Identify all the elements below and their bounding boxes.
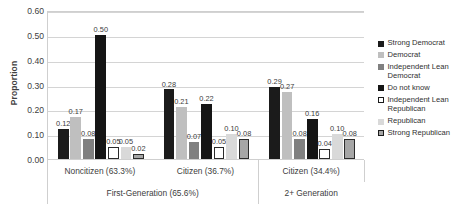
legend-swatch-icon <box>378 41 384 47</box>
category-label: Citizen (36.7%) <box>153 160 259 182</box>
category-label: Citizen (34.4%) <box>258 160 364 182</box>
axis-separator <box>47 160 48 204</box>
bar[interactable] <box>332 134 343 159</box>
legend-swatch-icon <box>378 85 384 91</box>
bar[interactable] <box>239 139 250 159</box>
legend-swatch-icon <box>378 64 384 70</box>
bar-slot: 0.10 <box>226 10 237 159</box>
legend-item[interactable]: Republican <box>378 116 464 126</box>
bar-slot: 0.28 <box>164 10 175 159</box>
legend-swatch-icon <box>378 119 384 125</box>
category-labels-row: Noncitizen (63.3%)Citizen (36.7%)Citizen… <box>47 160 364 182</box>
bar-slot: 0.22 <box>201 10 212 159</box>
y-tick-label: 0.00 <box>8 155 44 165</box>
bar-slot: 0.02 <box>133 10 144 159</box>
legend-item[interactable]: Strong Republican <box>378 128 464 138</box>
bar-slot: 0.16 <box>307 10 318 159</box>
bar-slot: 0.08 <box>294 10 305 159</box>
bar-chart: Proportion 0.000.100.200.300.400.500.60 … <box>0 0 464 205</box>
legend-label: Do not know <box>388 83 430 93</box>
bar[interactable] <box>164 89 175 159</box>
y-tick-label: 0.20 <box>8 105 44 115</box>
legend-label: Republican <box>388 116 426 126</box>
bar-value-label: 0.28 <box>162 81 176 88</box>
bar-slot: 0.21 <box>176 10 187 159</box>
bar-value-label: 0.08 <box>292 130 306 137</box>
bar[interactable] <box>294 139 305 159</box>
legend-label: Democrat <box>388 50 421 60</box>
y-tick-label: 0.40 <box>8 56 44 66</box>
group-headers-row: First-Generation (65.6%)2+ Generation <box>47 182 364 204</box>
bar[interactable] <box>226 134 237 159</box>
legend-item[interactable]: Independent Lean Democrat <box>378 62 464 81</box>
bar-value-label: 0.05 <box>212 138 226 145</box>
legend-label: Independent Lean Republican <box>388 95 464 114</box>
bar[interactable] <box>214 147 225 159</box>
bar-slot: 0.04 <box>319 10 330 159</box>
chart-legend: Strong DemocratDemocratIndependent Lean … <box>378 38 464 140</box>
bar-group: 0.290.270.080.160.040.100.08 <box>259 12 365 159</box>
legend-label: Strong Democrat <box>388 38 445 48</box>
bar[interactable] <box>201 104 212 159</box>
legend-label: Independent Lean Democrat <box>388 62 464 81</box>
y-tick-label: 0.10 <box>8 130 44 140</box>
legend-item[interactable]: Do not know <box>378 83 464 93</box>
y-tick-label: 0.60 <box>8 6 44 16</box>
group-header-label: First-Generation (65.6%) <box>47 182 258 204</box>
legend-item[interactable]: Democrat <box>378 50 464 60</box>
category-label: Noncitizen (63.3%) <box>47 160 153 182</box>
axis-separator <box>258 182 259 204</box>
bar[interactable] <box>70 117 81 159</box>
bar-value-label: 0.04 <box>317 140 331 147</box>
bar-value-label: 0.50 <box>94 26 108 33</box>
bar-value-label: 0.08 <box>343 130 357 137</box>
bar-slot: 0.08 <box>83 10 94 159</box>
legend-swatch-icon <box>378 130 384 136</box>
legend-label: Strong Republican <box>388 128 450 138</box>
bar[interactable] <box>176 107 187 159</box>
bar[interactable] <box>121 147 132 159</box>
bar[interactable] <box>95 35 106 159</box>
group-header-label: 2+ Generation <box>258 182 364 204</box>
y-tick-label: 0.30 <box>8 81 44 91</box>
bar[interactable] <box>282 92 293 159</box>
bar-slot: 0.12 <box>58 10 69 159</box>
bars-layer: 0.120.170.080.500.050.050.020.280.210.07… <box>48 12 364 159</box>
category-axis: Noncitizen (63.3%)Citizen (36.7%)Citizen… <box>47 160 364 204</box>
bar[interactable] <box>108 147 119 159</box>
plot-area: 0.120.170.080.500.050.050.020.280.210.07… <box>47 11 364 160</box>
bar-value-label: 0.22 <box>199 95 213 102</box>
bar-value-label: 0.08 <box>237 130 251 137</box>
legend-swatch-icon <box>378 52 384 58</box>
bar-value-label: 0.21 <box>174 98 188 105</box>
bar-value-label: 0.08 <box>81 130 95 137</box>
bar[interactable] <box>58 129 69 159</box>
legend-item[interactable]: Independent Lean Republican <box>378 95 464 114</box>
bar[interactable] <box>307 119 318 159</box>
legend-swatch-icon <box>378 97 384 103</box>
bar-slot: 0.08 <box>239 10 250 159</box>
bar-slot: 0.05 <box>214 10 225 159</box>
bar-slot: 0.08 <box>344 10 355 159</box>
bar-group: 0.280.210.070.220.050.100.08 <box>154 12 260 159</box>
bar[interactable] <box>83 139 94 159</box>
bar[interactable] <box>319 149 330 159</box>
bar-group: 0.120.170.080.500.050.050.02 <box>48 12 154 159</box>
bar[interactable] <box>133 154 144 159</box>
y-tick-label: 0.50 <box>8 31 44 41</box>
bar[interactable] <box>269 87 280 159</box>
legend-item[interactable]: Strong Democrat <box>378 38 464 48</box>
y-axis-tick-labels: 0.000.100.200.300.400.500.60 <box>8 8 44 160</box>
bar-slot: 0.50 <box>95 10 106 159</box>
axis-separator <box>364 160 365 182</box>
bar-slot: 0.17 <box>70 10 81 159</box>
bar-value-label: 0.27 <box>280 83 294 90</box>
bar-slot: 0.10 <box>332 10 343 159</box>
bar-value-label: 0.17 <box>69 108 83 115</box>
bar-value-label: 0.12 <box>56 120 70 127</box>
bar-slot: 0.27 <box>282 10 293 159</box>
bar[interactable] <box>344 139 355 159</box>
bar-slot: 0.05 <box>121 10 132 159</box>
bar[interactable] <box>189 142 200 159</box>
bar-value-label: 0.02 <box>131 145 145 152</box>
